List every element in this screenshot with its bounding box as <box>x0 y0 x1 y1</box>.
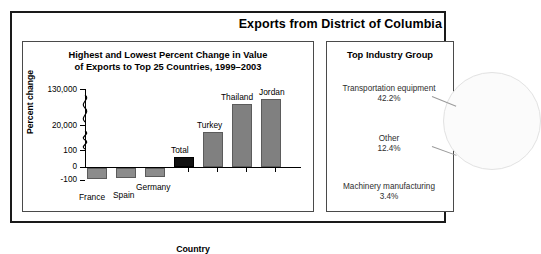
bar-label-turkey: Turkey <box>197 120 222 130</box>
bar-chart-panel: Highest and Lowest Percent Change in Val… <box>22 41 314 212</box>
bar-label-total: Total <box>171 145 189 155</box>
pie-chart-panel: Top Industry Group Transportation equipm… <box>326 41 454 212</box>
bar-thailand[interactable] <box>232 104 252 167</box>
pie-label-transportation-equipment-pct: 42.2% <box>325 94 453 104</box>
y-tick-label-130000: 130,000 <box>25 85 77 94</box>
pie-label-other-pct: 12.4% <box>325 144 453 154</box>
x-tick-mark <box>275 168 276 172</box>
x-tick-mark <box>217 168 218 172</box>
bar-spain[interactable] <box>116 168 136 178</box>
pie-graphic[interactable] <box>443 72 541 170</box>
y-tick-label-0: 0 <box>25 162 77 171</box>
pie-label-other: Other 12.4% <box>325 134 453 153</box>
bar-label-spain: Spain <box>113 190 134 200</box>
page-title: Exports from District of Columbia <box>239 17 442 31</box>
x-axis-title: Country <box>85 244 301 254</box>
pie-label-transportation-equipment: Transportation equipment 42.2% <box>325 84 453 103</box>
y-tick-mark-neg100 <box>80 180 85 181</box>
bar-chart: Percent change 130,000 20,000 100 0 -100 <box>23 42 313 211</box>
y-tick-label-100: 100 <box>25 146 77 155</box>
x-tick-mark <box>188 168 189 172</box>
pie-label-machinery-manufacturing-pct: 3.4% <box>325 192 453 202</box>
bar-jordan[interactable] <box>261 99 281 167</box>
bar-total[interactable] <box>174 157 194 167</box>
bar-label-jordan: Jordan <box>259 87 285 97</box>
bar-germany[interactable] <box>145 168 165 177</box>
y-axis-line <box>85 89 86 167</box>
y-tick-label-20000: 20,000 <box>25 121 77 130</box>
bar-label-france: France <box>79 192 105 202</box>
y-tick-label-neg100: -100 <box>25 175 77 184</box>
bar-label-germany: Germany <box>136 182 170 192</box>
bar-label-thailand: Thailand <box>221 92 253 102</box>
pie-label-machinery-manufacturing-name: Machinery manufacturing <box>325 182 453 192</box>
pie-chart: Transportation equipment 42.2% Other 12.… <box>327 42 453 211</box>
pie-label-other-name: Other <box>325 134 453 144</box>
pie-label-machinery-manufacturing: Machinery manufacturing 3.4% <box>325 182 453 201</box>
x-tick-mark <box>246 168 247 172</box>
pie-label-transportation-equipment-name: Transportation equipment <box>325 84 453 94</box>
bar-france[interactable] <box>87 168 107 179</box>
bar-turkey[interactable] <box>203 132 223 167</box>
